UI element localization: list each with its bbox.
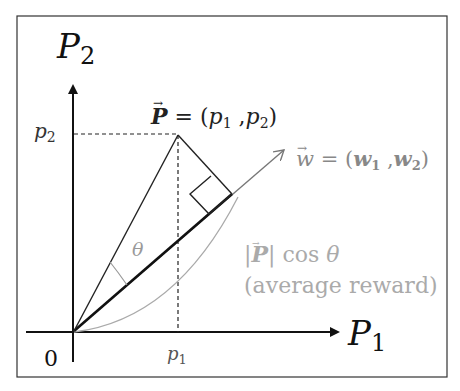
right-angle-marker [190,176,232,214]
y-axis-label: P2 [56,26,95,70]
svg-text:P = (p1 ,p2): P = (p1 ,p2) [150,103,277,131]
vector-P [74,135,178,331]
angle-arc [110,262,127,285]
vector-w-label: → w = (w1 ,w2) [296,141,429,173]
svg-text:|P| cos θ: |P| cos θ [244,241,339,268]
projection-segment [74,194,232,331]
average-reward-caption: (average reward) [244,273,438,298]
angle-theta-label: θ [132,238,144,260]
svg-text:w = (w1 ,w2): w = (w1 ,w2) [296,146,429,173]
vector-P-label: → P = (p1 ,p2) [150,96,277,131]
p2-tick-label: p2 [34,119,56,145]
projection-diagram: P2 P1 0 p2 p1 → P = (p1 ,p2) → w = (w1 ,… [0,0,460,391]
p1-tick-label: p1 [167,343,187,367]
perpendicular-line [178,135,232,194]
projection-arc [74,197,238,332]
projection-length-label: → |P| cos θ (average reward) [244,238,438,298]
origin-label: 0 [44,346,58,371]
x-axis-label: P1 [347,313,386,357]
